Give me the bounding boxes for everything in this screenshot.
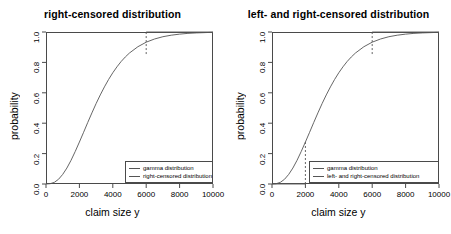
y-tick-label: 0.4 — [257, 112, 268, 134]
panel-left-and-right-censored: left- and right-censored distribution020… — [226, 0, 451, 234]
legend-label: left- and right-censored distribution — [327, 172, 419, 180]
legend-label: right-censored distribution — [143, 172, 212, 180]
legend-item: right-censored distribution — [129, 172, 209, 180]
legend-label: gamma distribution — [143, 164, 194, 172]
legend-line-swatch — [313, 176, 324, 177]
y-axis-label: probability — [234, 76, 246, 140]
legend: gamma distributionright-censored distrib… — [125, 161, 213, 183]
legend-item: left- and right-censored distribution — [313, 172, 435, 180]
y-tick-label: 0.2 — [257, 143, 268, 165]
legend: gamma distributionleft- and right-censor… — [309, 161, 439, 183]
y-tick-label: 1.0 — [31, 21, 42, 43]
legend-label: gamma distribution — [327, 164, 378, 172]
y-tick-label: 0.0 — [31, 173, 42, 195]
y-axis-label: probability — [8, 76, 20, 140]
y-tick-label: 0.4 — [31, 112, 42, 134]
y-tick-label: 0.2 — [31, 143, 42, 165]
x-axis-label: claim size y — [0, 206, 225, 218]
legend-line-swatch — [129, 168, 140, 169]
y-tick-label: 0.0 — [257, 173, 268, 195]
x-axis-label: claim size y — [226, 206, 451, 218]
x-tick-label: 10000 — [417, 190, 451, 199]
figure-root: right-censored distribution0200040006000… — [0, 0, 451, 234]
legend-item: gamma distribution — [313, 164, 435, 172]
panel-right-censored: right-censored distribution0200040006000… — [0, 0, 225, 234]
legend-line-swatch — [129, 176, 140, 177]
legend-line-swatch — [313, 168, 324, 169]
y-tick-label: 0.6 — [31, 82, 42, 104]
y-tick-label: 1.0 — [257, 21, 268, 43]
y-tick-label: 0.6 — [257, 82, 268, 104]
y-tick-label: 0.8 — [31, 51, 42, 73]
legend-item: gamma distribution — [129, 164, 209, 172]
y-tick-label: 0.8 — [257, 51, 268, 73]
